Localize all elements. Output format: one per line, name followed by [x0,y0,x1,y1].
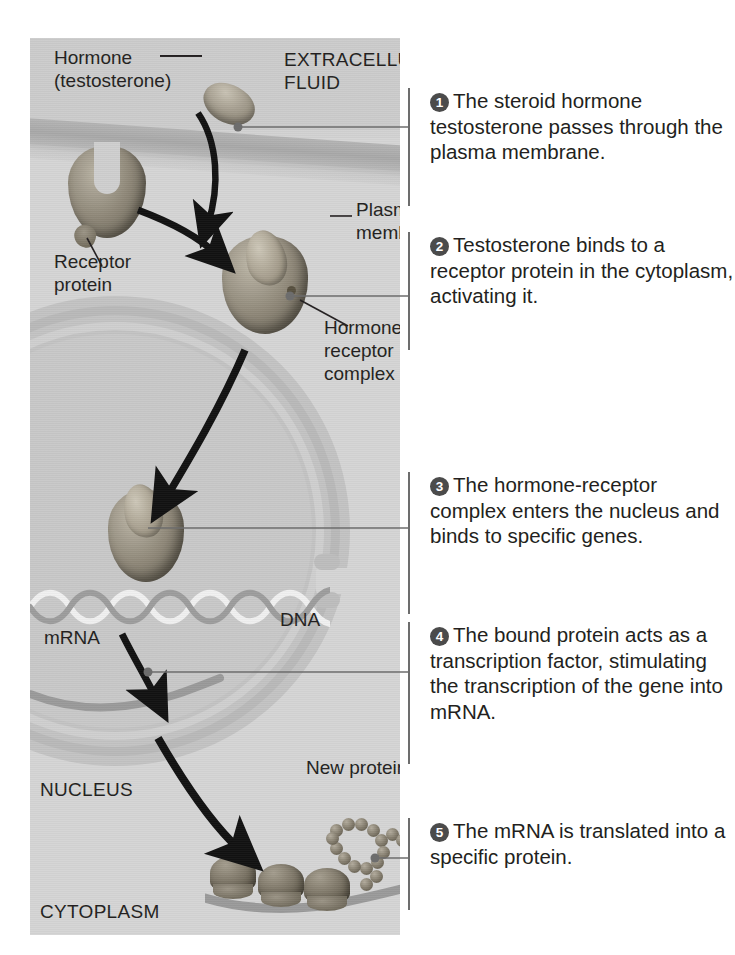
step-2-text: Testosterone binds to a receptor protein… [430,233,733,307]
step-2-badge: 2 [430,237,449,256]
illustration-panel: Hormone (testosterone) EXTRACELLULAR FLU… [30,38,400,935]
step-4[interactable]: 4The bound protein acts as a transcripti… [408,622,735,724]
step-3-text: The hormone-receptor complex enters the … [430,473,719,547]
step-3[interactable]: 3The hormone-receptor complex enters the… [408,472,735,549]
new-protein-chain [30,38,400,935]
step-1-rule [408,88,410,206]
step-1-text: The steroid hormone testosterone passes … [430,89,723,163]
step-3-badge: 3 [430,477,449,496]
step-4-text: The bound protein acts as a transcriptio… [430,623,723,723]
step-5-rule [408,818,410,910]
step-5[interactable]: 5The mRNA is translated into a specific … [408,818,735,869]
step-3-rule [408,472,410,614]
step-5-badge: 5 [430,823,449,842]
step-4-badge: 4 [430,627,449,646]
step-5-text: The mRNA is translated into a specific p… [430,819,725,868]
step-4-rule [408,622,410,764]
step-1-badge: 1 [430,93,449,112]
step-2[interactable]: 2Testosterone binds to a receptor protei… [408,232,735,309]
step-callouts: 1The steroid hormone testosterone passes… [408,0,735,955]
step-2-rule [408,232,410,350]
step-1[interactable]: 1The steroid hormone testosterone passes… [408,88,735,165]
